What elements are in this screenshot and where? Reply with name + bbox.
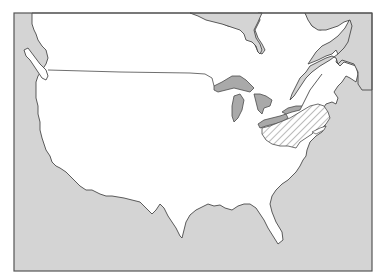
us-outline-map xyxy=(0,0,381,279)
map-container xyxy=(0,0,381,279)
